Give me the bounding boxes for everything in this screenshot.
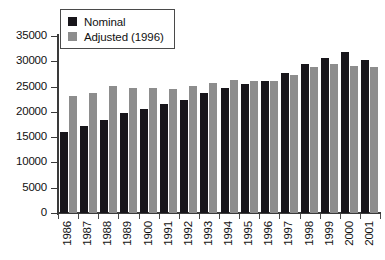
x-axis-label: 1998: [304, 221, 314, 246]
y-axis-label: 30000: [16, 55, 47, 66]
bar-group: [139, 36, 159, 213]
bar-adjusted: [370, 67, 378, 213]
bar-adjusted: [270, 81, 278, 213]
y-axis-tick: [51, 162, 58, 163]
y-axis-label: 0: [41, 207, 47, 218]
x-axis-tick: [239, 214, 240, 219]
bar-group: [300, 36, 320, 213]
x-axis-label: 1995: [243, 221, 253, 246]
bar-group: [78, 36, 98, 213]
x-axis-tick: [300, 214, 301, 219]
bar-nominal: [140, 109, 148, 213]
bar-group: [259, 36, 279, 213]
y-axis-tick: [51, 61, 58, 62]
bar-adjusted: [310, 67, 318, 213]
x-axis-tick: [279, 214, 280, 219]
legend-item-nominal: Nominal: [68, 14, 164, 29]
y-axis-label: 10000: [16, 156, 47, 167]
legend-label-nominal: Nominal: [84, 16, 125, 28]
x-axis-label: 2001: [364, 221, 374, 246]
x-axis-tick: [320, 214, 321, 219]
bar-nominal: [80, 126, 88, 213]
y-axis-tick: [51, 188, 58, 189]
x-axis-label: 1988: [102, 221, 112, 246]
bar-adjusted: [330, 64, 338, 213]
bar-adjusted: [149, 88, 157, 213]
x-axis-label: 1997: [283, 221, 293, 246]
plot-area: [58, 36, 380, 213]
bar-chart: 05000100001500020000250003000035000 1986…: [0, 0, 385, 260]
bar-nominal: [321, 58, 329, 213]
bar-nominal: [281, 73, 289, 213]
bar-group: [179, 36, 199, 213]
bar-nominal: [261, 81, 269, 213]
x-axis-tick: [159, 214, 160, 219]
bar-nominal: [341, 52, 349, 213]
x-axis-tick: [199, 214, 200, 219]
x-axis-tick: [98, 214, 99, 219]
x-axis-tick: [118, 214, 119, 219]
bar-nominal: [100, 120, 108, 213]
x-axis-tick: [219, 214, 220, 219]
bar-group: [98, 36, 118, 213]
x-axis-label: 1994: [223, 221, 233, 246]
bar-adjusted: [169, 89, 177, 213]
x-axis-tick: [58, 214, 59, 219]
x-axis-tick: [340, 214, 341, 219]
y-axis-tick: [51, 213, 58, 214]
bar-group: [159, 36, 179, 213]
x-axis-label: 1993: [203, 221, 213, 246]
bar-nominal: [241, 84, 249, 213]
bar-adjusted: [350, 66, 358, 213]
y-axis-label: 25000: [16, 81, 47, 92]
bar-group: [340, 36, 360, 213]
bar-adjusted: [290, 75, 298, 213]
bar-nominal: [160, 104, 168, 213]
chart-legend: Nominal Adjusted (1996): [60, 9, 175, 49]
y-axis-tick: [51, 137, 58, 138]
bar-adjusted: [129, 88, 137, 213]
bar-nominal: [361, 60, 369, 213]
legend-item-adjusted: Adjusted (1996): [68, 29, 164, 44]
x-axis-tick: [179, 214, 180, 219]
y-axis-label: 15000: [16, 131, 47, 142]
bar-adjusted: [89, 93, 97, 213]
x-axis-tick: [259, 214, 260, 219]
y-axis-label: 5000: [22, 182, 47, 193]
x-axis-tick: [139, 214, 140, 219]
bar-adjusted: [189, 86, 197, 213]
bar-group: [320, 36, 340, 213]
bar-group: [118, 36, 138, 213]
y-axis-label: 35000: [16, 30, 47, 41]
x-axis-tick: [380, 214, 381, 219]
x-axis-label: 1986: [62, 221, 72, 246]
bar-nominal: [200, 93, 208, 213]
bar-group: [279, 36, 299, 213]
bar-group: [219, 36, 239, 213]
x-axis-label: 2000: [344, 221, 354, 246]
x-axis-label: 1900: [143, 221, 153, 246]
x-axis-label: 1992: [183, 221, 193, 246]
y-axis-label: 20000: [16, 106, 47, 117]
x-axis-label: 1991: [163, 221, 173, 246]
y-axis-tick: [51, 36, 58, 37]
bar-nominal: [180, 100, 188, 213]
x-axis-tick: [78, 214, 79, 219]
bar-adjusted: [230, 80, 238, 214]
x-axis-label: 1996: [263, 221, 273, 246]
adjusted-swatch-icon: [68, 32, 77, 41]
bar-group: [199, 36, 219, 213]
bar-adjusted: [209, 83, 217, 213]
x-axis-label: 1999: [324, 221, 334, 246]
bar-nominal: [221, 88, 229, 213]
bar-nominal: [120, 113, 128, 213]
legend-label-adjusted: Adjusted (1996): [84, 31, 164, 43]
y-axis-tick: [51, 87, 58, 88]
bar-group: [58, 36, 78, 213]
bar-nominal: [301, 64, 309, 213]
bar-adjusted: [69, 96, 77, 213]
x-axis-label: 1989: [122, 221, 132, 246]
x-axis-tick: [360, 214, 361, 219]
nominal-swatch-icon: [68, 17, 77, 26]
bar-nominal: [60, 132, 68, 213]
